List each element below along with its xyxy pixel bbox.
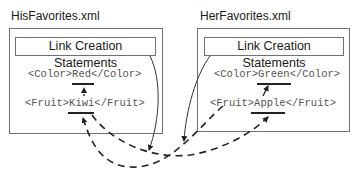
link-arrows <box>0 0 356 177</box>
left-link-solid-arrow <box>149 56 158 150</box>
right-link-solid-arrow <box>184 56 210 141</box>
apple-to-green-arrow <box>263 86 268 96</box>
kiwi-to-apple-dashed-arrow <box>92 115 268 156</box>
